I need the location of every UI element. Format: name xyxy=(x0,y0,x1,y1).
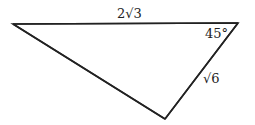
triangle-figure: 2√3 45° √6 xyxy=(0,0,255,125)
side-top xyxy=(13,23,238,24)
diagram-canvas: 2√3 45° √6 xyxy=(0,0,255,125)
side-left xyxy=(13,24,165,119)
label-angle-45: 45° xyxy=(205,26,228,41)
label-right-side: √6 xyxy=(203,71,220,86)
label-top-side: 2√3 xyxy=(117,6,142,21)
